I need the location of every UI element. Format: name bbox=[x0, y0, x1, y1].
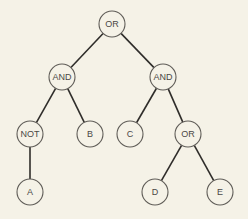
node-label: NOT bbox=[21, 129, 41, 139]
node-label: C bbox=[127, 129, 134, 139]
nodes-layer: ORANDANDNOTBCORADE bbox=[17, 11, 233, 205]
tree-node-d: D bbox=[142, 179, 168, 205]
node-label: AND bbox=[52, 72, 72, 82]
edge-n3-n7 bbox=[168, 89, 183, 122]
logic-expression-tree: ORANDANDNOTBCORADE bbox=[0, 0, 248, 219]
edge-n7-n9 bbox=[161, 145, 181, 180]
edge-n7-n10 bbox=[194, 145, 213, 180]
tree-node-c: C bbox=[117, 121, 143, 147]
edge-n3-n6 bbox=[137, 88, 157, 122]
node-label: OR bbox=[105, 19, 119, 29]
tree-node-and: AND bbox=[150, 64, 176, 90]
node-label: B bbox=[87, 129, 93, 139]
node-label: A bbox=[27, 187, 33, 197]
node-label: OR bbox=[181, 129, 195, 139]
node-label: D bbox=[152, 187, 159, 197]
edges-layer bbox=[30, 33, 214, 180]
tree-node-b: B bbox=[77, 121, 103, 147]
tree-node-and: AND bbox=[49, 64, 75, 90]
edge-n2-n5 bbox=[68, 89, 85, 123]
edge-n1-n2 bbox=[71, 33, 103, 67]
tree-node-or: OR bbox=[175, 121, 201, 147]
node-label: E bbox=[217, 187, 223, 197]
tree-node-or: OR bbox=[99, 11, 125, 37]
tree-node-e: E bbox=[207, 179, 233, 205]
edge-n2-n4 bbox=[36, 88, 55, 122]
tree-node-not: NOT bbox=[17, 121, 43, 147]
edge-n1-n3 bbox=[121, 33, 154, 67]
tree-node-a: A bbox=[17, 179, 43, 205]
node-label: AND bbox=[153, 72, 173, 82]
